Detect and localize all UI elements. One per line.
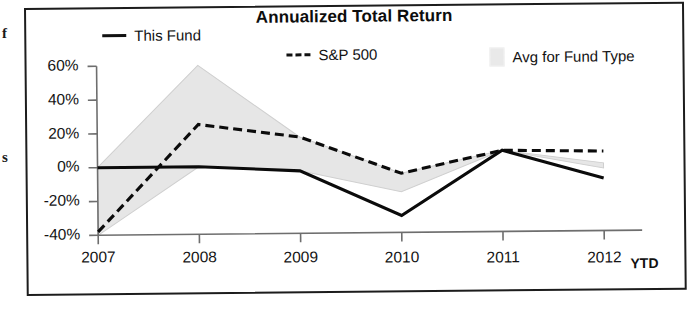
x-axis-tick-label: 2010 — [367, 248, 437, 267]
x-axis-tick-label: 2007 — [63, 248, 133, 267]
y-axis-tick-label: 40% — [15, 90, 79, 109]
x-axis-tick-label: 2009 — [266, 248, 336, 267]
y-axis-tick-label: -40% — [16, 225, 80, 244]
x-axis-tick-label: 2008 — [165, 248, 235, 267]
y-axis-tick-label: 20% — [15, 124, 79, 143]
x-axis-tick-label: 2011 — [468, 248, 538, 267]
y-axis-tick-label: 60% — [14, 56, 78, 75]
x-axis-tick-label: 2012 — [569, 248, 639, 267]
page-text-fragment-left-middle: s — [2, 150, 8, 165]
y-axis-tick-label: -20% — [16, 192, 80, 211]
series-band-avg-for-fund-type — [97, 61, 605, 235]
chart-container: Annualized Total Return This Fund S&P 50… — [24, 2, 687, 296]
avg-fund-type-band — [97, 61, 605, 235]
page-text-fragment-left-top: f — [2, 26, 7, 41]
x-axis-ytd-label: YTD — [630, 255, 658, 271]
y-axis-tick-label: 0% — [15, 158, 79, 177]
